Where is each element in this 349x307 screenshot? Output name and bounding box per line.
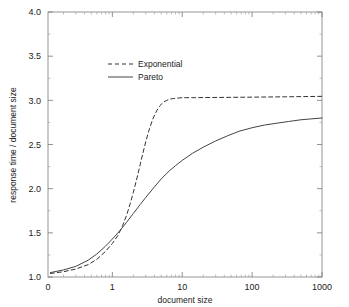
y-axis-title: response time / document size <box>8 87 18 203</box>
y-tick-label: 3.5 <box>28 51 41 61</box>
chart-figure: 01101001000 1.01.52.02.53.03.54.0 docume… <box>0 0 349 307</box>
legend-label-exponential: Exponential <box>138 59 183 69</box>
line-chart: 01101001000 1.01.52.02.53.03.54.0 docume… <box>0 0 349 307</box>
y-tick-label: 2.5 <box>28 140 41 150</box>
x-tick-label: 10 <box>177 282 187 292</box>
x-tick-label: 0 <box>45 282 50 292</box>
y-tick-label: 1.5 <box>28 228 41 238</box>
x-tick-label: 1000 <box>312 282 332 292</box>
x-tick-label: 1 <box>110 282 115 292</box>
y-tick-label: 3.0 <box>28 96 41 106</box>
y-tick-label: 2.0 <box>28 184 41 194</box>
y-tick-label: 4.0 <box>28 7 41 17</box>
x-axis-title: document size <box>158 295 213 305</box>
chart-background <box>0 0 349 307</box>
x-tick-label: 100 <box>245 282 260 292</box>
y-tick-label: 1.0 <box>28 272 41 282</box>
legend-label-pareto: Pareto <box>138 72 163 82</box>
